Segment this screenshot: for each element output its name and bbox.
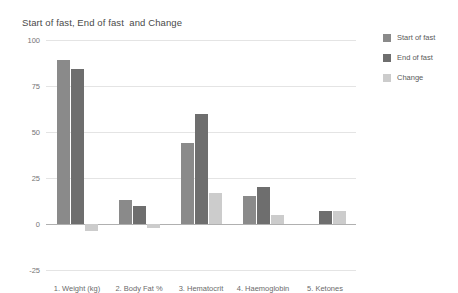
y-axis-tick-label: 50 [32,128,40,137]
bar [71,69,84,224]
y-axis-tick-label: -25 [29,266,40,275]
bar [195,114,208,224]
bar [319,211,332,224]
x-axis-tick-label: 1. Weight (kg) [54,284,101,293]
plot-area: 1007550250-25 1. Weight (kg)2. Body Fat … [46,40,356,270]
legend-swatch-icon [383,34,391,42]
gridline [46,270,356,271]
legend-swatch-icon [383,74,391,82]
x-axis-tick-label: 3. Hematocrit [179,284,224,293]
chart-legend: Start of fastEnd of fastChange [383,33,455,93]
bar [209,193,222,224]
legend-item[interactable]: End of fast [383,53,455,62]
legend-swatch-icon [383,54,391,62]
gridline [46,86,356,87]
bar [57,60,70,224]
gridline [46,40,356,41]
legend-item-label: End of fast [397,53,433,62]
legend-item[interactable]: Start of fast [383,33,455,42]
y-axis-tick-label: 100 [27,36,40,45]
legend-item-label: Change [397,73,423,82]
y-axis-tick-label: 25 [32,174,40,183]
x-axis-tick-label: 5. Ketones [307,284,343,293]
bar [133,206,146,224]
bar [271,215,284,224]
y-axis-tick-label: 0 [36,220,40,229]
bar [147,224,160,228]
bar [243,196,256,224]
bar [85,224,98,231]
bar [257,187,270,224]
x-axis-tick-label: 4. Haemoglobin [237,284,290,293]
bar [119,200,132,224]
x-axis-tick-label: 2. Body Fat % [115,284,162,293]
bar [333,211,346,224]
chart-title: Start of fast, End of fast and Change [22,17,182,28]
bar [181,143,194,224]
y-axis-tick-label: 75 [32,82,40,91]
legend-item[interactable]: Change [383,73,455,82]
legend-item-label: Start of fast [397,33,435,42]
